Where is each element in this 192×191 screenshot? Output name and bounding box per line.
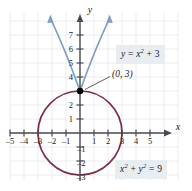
grid-lines [10,13,178,181]
y-tick-label-6: 6 [69,44,73,54]
parabola-left-arrowhead [47,15,53,24]
x-tick-label--2: –2 [47,136,57,146]
x-tick-label-5: 5 [148,136,152,146]
circle-eq-plus: + [130,164,136,174]
y-axis-arrowhead [77,14,84,22]
parabola-eq-constant: + 3 [147,49,160,59]
intersection-point-marker [77,88,83,94]
y-tick-label-1: 1 [69,114,73,124]
circle-eq-x-exponent: 2 [124,162,127,169]
intersection-point-label: (0, 3) [112,70,133,80]
y-tick-label--1: –1 [76,144,86,154]
parabola-right-arrowhead [106,15,112,24]
y-tick-label-5: 5 [69,58,73,68]
x-tick-label-4: 4 [134,136,139,146]
x-axis-label: x [175,121,181,132]
circle-eq-rhs: 9 [157,164,162,174]
parabola-equation-label: y = x2 + 3 [116,45,165,64]
circle-equation-label: x2 + y2 = 9 [115,160,167,179]
axes [10,18,168,181]
parabola-eq-equals: = [128,49,134,59]
x-tick-label--4: –4 [19,136,29,146]
y-tick-label-7: 7 [69,30,73,40]
y-tick-label-2: 2 [69,100,73,110]
y-axis-label: y [87,4,93,15]
circle-eq-equals: = [149,164,155,174]
x-tick-label-1: 1 [92,136,96,146]
y-tick-label--3: –3 [76,172,86,182]
x-tick-label--3: –3 [33,136,43,146]
x-tick-label-2: 2 [106,136,110,146]
x-tick-label--1: –1 [61,136,71,146]
x-tick-label--5: –5 [5,136,15,146]
point-leader-line [85,77,110,90]
math-figure: –5 –4 –3 –2 –1 1 2 3 4 5 7 6 5 4 2 1 –1 … [0,0,192,191]
x-axis-arrowhead [164,130,172,137]
x-tick-label-3: 3 [120,136,124,146]
y-tick-label--2: –2 [76,158,86,168]
parabola-eq-exponent: 2 [141,47,144,54]
circle-eq-y-exponent: 2 [143,162,146,169]
